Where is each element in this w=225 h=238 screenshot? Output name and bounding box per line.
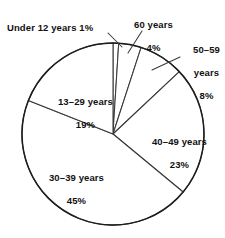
pie-label-30-39-years: 30–39 years 45%	[33, 160, 109, 218]
pie-chart-figure: Under 12 years 1% 60 years 4% 50–59 year…	[0, 0, 225, 238]
pie-label-50-59-years-line3: 8%	[200, 90, 214, 101]
pie-label-60-years: 60 years 4%	[117, 7, 179, 65]
pie-label-50-59-years-line2: years	[194, 67, 219, 78]
pie-label-50-59-years-line1: 50–59	[193, 44, 220, 55]
pie-label-50-59-years: 50–59 years 8%	[179, 32, 223, 113]
pie-label-13-29-years-line2: 19%	[76, 119, 95, 130]
pie-label-40-49-years-line1: 40–49 years	[152, 136, 207, 147]
pie-label-60-years-line2: 4%	[147, 42, 161, 53]
pie-label-60-years-line1: 60 years	[134, 19, 173, 30]
pie-label-40-49-years: 40–49 years 23%	[136, 124, 212, 182]
pie-label-30-39-years-line2: 45%	[67, 195, 86, 206]
pie-label-under-12-years: Under 12 years 1%	[7, 22, 93, 34]
pie-label-30-39-years-line1: 30–39 years	[49, 172, 104, 183]
pie-label-13-29-years: 13–29 years 19%	[43, 84, 117, 142]
pie-label-40-49-years-line2: 23%	[170, 159, 189, 170]
pie-label-13-29-years-line1: 13–29 years	[58, 96, 113, 107]
